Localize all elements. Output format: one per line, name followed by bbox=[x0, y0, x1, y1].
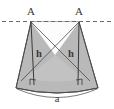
label-height-right: h bbox=[68, 48, 74, 59]
label-height-left: h bbox=[36, 48, 42, 59]
label-apex-right: A bbox=[75, 5, 83, 17]
label-base-arc: a bbox=[55, 93, 60, 104]
geometry-figure: A A h h a bbox=[0, 0, 114, 109]
label-apex-left: A bbox=[27, 5, 35, 17]
geometry-figure-svg: A A h h a bbox=[0, 0, 114, 109]
